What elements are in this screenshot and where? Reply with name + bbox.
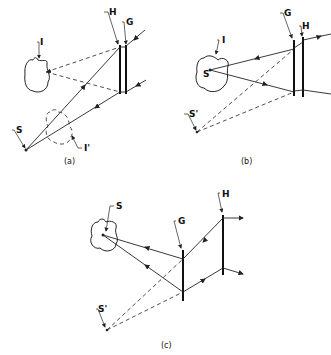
ray-g-to-h-top xyxy=(183,218,223,259)
label-h: H xyxy=(222,189,230,199)
label-i: I xyxy=(222,35,225,45)
ray-s-to-g-bottom xyxy=(103,235,183,292)
dashed-ray-bottom xyxy=(46,72,120,92)
label-h: H xyxy=(302,21,310,31)
panel-a: H G I S I' (a) xyxy=(12,7,146,166)
panel-b: G H I S S' (b) xyxy=(184,8,331,166)
label-g: G xyxy=(178,216,185,226)
caption-a: (a) xyxy=(64,157,75,166)
label-s: S xyxy=(116,201,122,211)
ray-s-to-top xyxy=(210,49,294,70)
caption-c: (c) xyxy=(161,341,172,350)
label-h: H xyxy=(109,7,117,17)
virtual-image-i-prime-blob xyxy=(46,110,72,144)
beam-out-top xyxy=(303,34,331,40)
label-s-prime: S' xyxy=(98,304,107,314)
dashed-ray-bottom xyxy=(107,292,183,330)
label-g: G xyxy=(284,8,291,18)
label-s: S xyxy=(16,125,22,135)
ray-s-to-bottom xyxy=(26,92,120,150)
dashed-ray-bottom xyxy=(197,92,294,132)
caption-b: (b) xyxy=(241,157,252,166)
ray-s-to-bottom xyxy=(210,70,294,92)
label-s-prime: S' xyxy=(189,109,198,119)
beam-out-bottom xyxy=(223,268,243,274)
dashed-ray-top xyxy=(107,259,183,330)
ray-s-to-top xyxy=(26,47,120,150)
beam-out-bottom xyxy=(303,90,331,94)
label-i: I xyxy=(40,37,43,47)
object-i-blob xyxy=(25,58,50,92)
diagram-canvas: H G I S I' (a) G H xyxy=(0,0,331,355)
panel-c: S G H S' (c) xyxy=(91,189,243,350)
label-g: G xyxy=(126,17,133,27)
label-i-prime: I' xyxy=(84,143,90,153)
label-s: S xyxy=(203,69,209,79)
